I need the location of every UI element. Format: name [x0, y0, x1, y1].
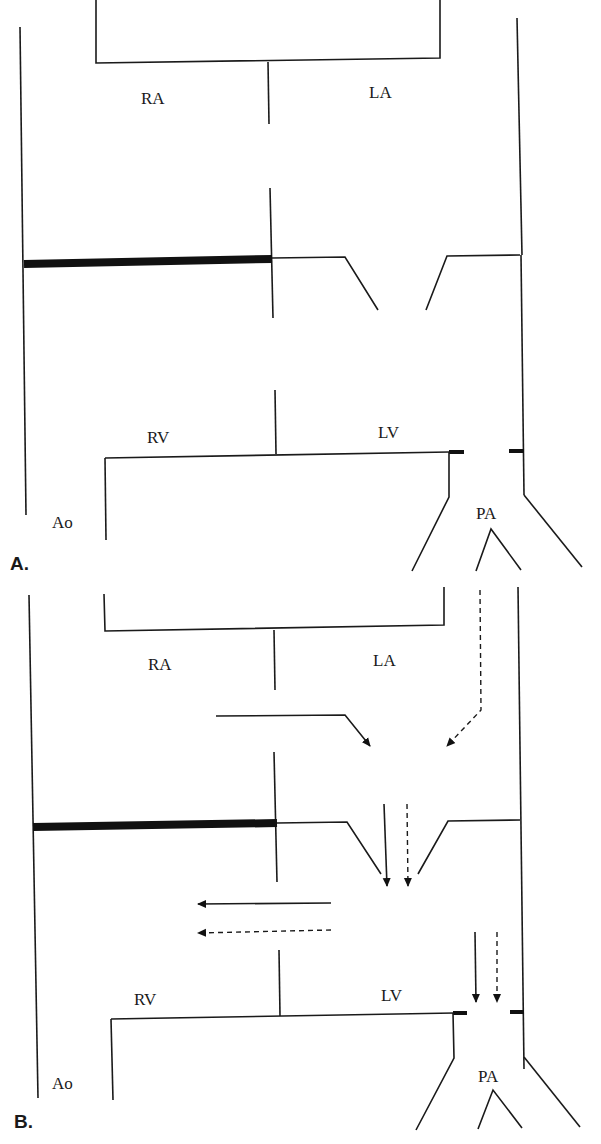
ventricular-septum-lower	[275, 390, 276, 454]
dashed-arrow-bent	[447, 590, 481, 746]
solid-arrow-left-shunt	[198, 903, 331, 904]
label-rv: RV	[134, 990, 157, 1009]
panel-a: RA LA RV LV Ao PA A.	[10, 0, 582, 574]
pa-bifurcation	[478, 1090, 522, 1129]
ventricular-septum-upper	[274, 752, 277, 882]
ventricular-septum-lower	[279, 950, 280, 1016]
mitral-left-leaflet	[277, 822, 381, 874]
circulation-diagram: RA LA RV LV Ao PA A.	[0, 0, 601, 1144]
label-ra: RA	[141, 89, 165, 108]
solid-arrow-bent	[216, 715, 370, 746]
right-outer-wall	[517, 18, 522, 255]
label-ra: RA	[148, 655, 172, 674]
ventricle-floor	[111, 1013, 454, 1019]
pa-bifurcation	[476, 529, 521, 571]
panel-b: RA LA RV LV Ao PA B.	[14, 587, 580, 1132]
label-pa: PA	[476, 504, 497, 523]
solid-arrow-down-pa	[475, 932, 476, 1002]
label-ao: Ao	[52, 1074, 73, 1093]
atria-top-wall	[96, 0, 440, 63]
panel-label-a: A.	[10, 553, 29, 574]
right-outer-wall	[518, 587, 524, 1069]
panel-label-b: B.	[14, 1111, 33, 1132]
mitral-right-leaflet	[426, 255, 520, 310]
thick-wall	[24, 259, 272, 264]
atrial-septum	[274, 630, 275, 690]
mitral-right-leaflet	[418, 820, 520, 874]
aorta-wall	[111, 1019, 113, 1100]
atria-top-wall	[104, 587, 444, 631]
label-lv: LV	[378, 423, 400, 442]
atrial-septum	[268, 62, 269, 124]
label-lv: LV	[381, 986, 403, 1005]
pa-left-wall	[412, 452, 449, 571]
pa-left-wall	[416, 1013, 454, 1130]
label-ao: Ao	[52, 513, 73, 532]
label-rv: RV	[147, 428, 170, 447]
left-outer-wall	[20, 27, 26, 515]
label-la: LA	[373, 651, 396, 670]
ventricle-floor	[105, 452, 449, 458]
left-outer-wall	[29, 595, 38, 1098]
pa-right-wall	[524, 495, 582, 567]
thick-wall	[33, 823, 277, 827]
label-la: LA	[369, 83, 392, 102]
solid-arrow-down-center	[384, 804, 387, 886]
label-pa: PA	[478, 1067, 499, 1086]
ventricular-septum-upper	[270, 188, 273, 318]
dashed-arrow-down-center	[407, 804, 408, 886]
aorta-wall	[105, 458, 106, 540]
dashed-arrow-left-shunt	[198, 930, 331, 933]
pa-right-wall	[524, 1057, 580, 1127]
right-outer-wall-lower	[521, 255, 524, 495]
mitral-left-leaflet	[272, 257, 378, 310]
